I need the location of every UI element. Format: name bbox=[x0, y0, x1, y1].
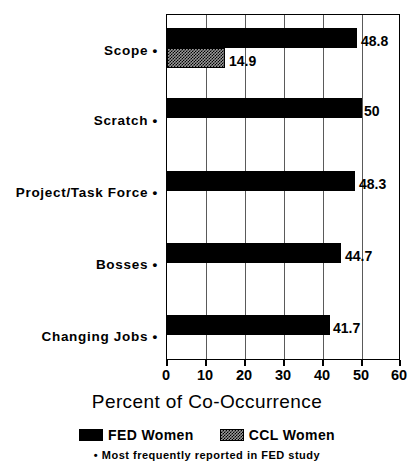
legend-label-fed-women: FED Women bbox=[108, 428, 194, 442]
value-label-fed-bosses: 44.7 bbox=[345, 249, 372, 263]
bar-fed-scope bbox=[167, 28, 357, 48]
tick-label-50: 50 bbox=[341, 368, 381, 383]
category-label-bosses: Bosses • bbox=[0, 258, 158, 272]
x-axis-title: Percent of Co-Occurrence bbox=[0, 392, 414, 413]
legend-label-ccl-women: CCL Women bbox=[249, 428, 335, 442]
bar-ccl-scope bbox=[167, 48, 225, 68]
category-label-scratch: Scratch • bbox=[0, 114, 158, 128]
bar-fed-project-task-force bbox=[167, 171, 355, 191]
value-label-fed-scratch: 50 bbox=[364, 104, 380, 118]
tick-mark-50 bbox=[361, 360, 363, 366]
chart-footnote: • Most frequently reported in FED study bbox=[0, 450, 414, 461]
legend-swatch-ccl-icon bbox=[220, 429, 244, 441]
bar-chart: 48.8 14.9 50 48.3 44.7 41.7 Scope • Scra… bbox=[0, 0, 414, 468]
value-label-fed-scope: 48.8 bbox=[361, 34, 388, 48]
category-label-scope: Scope • bbox=[0, 44, 158, 58]
tick-mark-0 bbox=[166, 360, 168, 366]
tick-mark-20 bbox=[244, 360, 246, 366]
chart-legend: FED Women CCL Women bbox=[0, 428, 414, 442]
category-label-changing-jobs: Changing Jobs • bbox=[0, 330, 158, 344]
legend-swatch-fed-icon bbox=[79, 429, 103, 441]
tick-label-60: 60 bbox=[379, 368, 414, 383]
tick-label-30: 30 bbox=[263, 368, 303, 383]
tick-label-10: 10 bbox=[185, 368, 225, 383]
bar-fed-changing-jobs bbox=[167, 315, 330, 335]
legend-entry-fed-women: FED Women bbox=[79, 428, 194, 442]
tick-mark-40 bbox=[322, 360, 324, 366]
tick-mark-60 bbox=[399, 360, 401, 366]
value-label-fed-project-task-force: 48.3 bbox=[359, 177, 386, 191]
legend-entry-ccl-women: CCL Women bbox=[220, 428, 335, 442]
tick-label-40: 40 bbox=[302, 368, 342, 383]
category-label-project-task-force: Project/Task Force • bbox=[0, 186, 158, 200]
bar-fed-bosses bbox=[167, 243, 341, 263]
tick-mark-30 bbox=[283, 360, 285, 366]
value-label-ccl-scope: 14.9 bbox=[229, 54, 256, 68]
tick-label-0: 0 bbox=[146, 368, 186, 383]
tick-mark-10 bbox=[205, 360, 207, 366]
tick-label-20: 20 bbox=[224, 368, 264, 383]
bar-fed-scratch bbox=[167, 98, 362, 118]
value-label-fed-changing-jobs: 41.7 bbox=[333, 321, 360, 335]
